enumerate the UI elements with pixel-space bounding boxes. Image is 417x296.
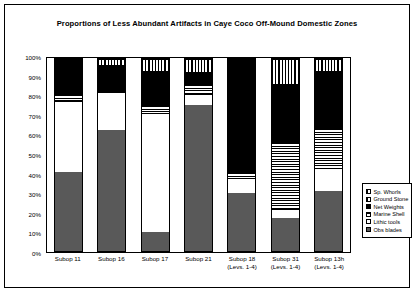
legend-item[interactable]: Sp. Whorls xyxy=(366,189,409,195)
y-axis-tick-label: 70% xyxy=(29,112,41,119)
stacked-bar[interactable] xyxy=(271,58,300,252)
x-axis-label-sub: (Levs. 1-4) xyxy=(309,263,349,271)
bar-segment xyxy=(228,193,255,251)
legend-swatch xyxy=(366,204,371,209)
x-axis-label-main: Subop 16 xyxy=(92,255,132,263)
chart-legend: Sp. WhorlsGround StoneNet WeightsMarine … xyxy=(362,183,412,238)
bar-segment xyxy=(185,94,212,106)
y-axis-tick-label: 20% xyxy=(29,210,41,217)
x-axis-label-main: Subop 31 xyxy=(266,255,306,263)
y-axis-tick-label: 30% xyxy=(29,191,41,198)
bar-segment xyxy=(185,59,212,72)
bar-segment xyxy=(315,191,342,251)
bar-segment xyxy=(142,71,169,106)
bar-column xyxy=(141,58,170,252)
bar-segment xyxy=(142,232,169,251)
x-axis-label-sub: (Levs. 1-4) xyxy=(266,263,306,271)
stacked-bar[interactable] xyxy=(314,58,343,252)
stacked-bar[interactable] xyxy=(227,58,256,252)
x-axis-tick-label: Subop 21 xyxy=(179,255,219,289)
x-axis: Subop 11Subop 16Subop 17Subop 21Subop 18… xyxy=(46,255,351,289)
bar-segment xyxy=(315,71,342,129)
stacked-bar[interactable] xyxy=(97,58,126,252)
bar-segment xyxy=(315,168,342,191)
x-axis-label-sub: (Levs. 1-4) xyxy=(222,263,262,271)
bar-segment xyxy=(142,59,169,71)
bar-segment xyxy=(315,59,342,71)
bar-column xyxy=(314,58,343,252)
stacked-bar[interactable] xyxy=(184,58,213,252)
x-axis-tick-label: Subop 17 xyxy=(135,255,175,289)
bar-segment xyxy=(55,59,82,94)
y-axis-tick-label: 60% xyxy=(29,132,41,139)
legend-swatch xyxy=(366,227,371,232)
bar-segment xyxy=(185,105,212,251)
bar-column xyxy=(184,58,213,252)
bar-segment xyxy=(228,59,255,172)
x-axis-tick-label: Subop 13h(Levs. 1-4) xyxy=(309,255,349,289)
legend-label: Marine Shell xyxy=(374,211,405,217)
bar-segment xyxy=(55,172,82,251)
legend-swatch xyxy=(366,197,371,202)
y-axis: 0%10%20%30%40%50%60%70%80%90%100% xyxy=(5,57,44,253)
x-axis-tick-label: Subop 11 xyxy=(48,255,88,289)
legend-label: Ground Stone xyxy=(374,196,409,202)
y-axis-tick-label: 50% xyxy=(29,152,41,159)
x-axis-label-main: Subop 17 xyxy=(135,255,175,263)
bar-segment xyxy=(272,218,299,251)
legend-label: Obs blades xyxy=(374,227,402,233)
legend-item[interactable]: Ground Stone xyxy=(366,196,409,202)
y-axis-tick-label: 80% xyxy=(29,93,41,100)
bar-segment xyxy=(98,65,125,92)
bar-segment xyxy=(185,84,212,94)
bar-column xyxy=(271,58,300,252)
stacked-bar[interactable] xyxy=(54,58,83,252)
bar-segment xyxy=(315,128,342,168)
y-axis-tick-label: 90% xyxy=(29,73,41,80)
x-axis-tick-label: Subop 16 xyxy=(92,255,132,289)
bar-segment xyxy=(272,84,299,142)
legend-swatch xyxy=(366,189,371,194)
bar-segment xyxy=(142,105,169,113)
x-axis-label-main: Subop 13h xyxy=(309,255,349,263)
y-axis-tick-label: 0% xyxy=(32,250,41,257)
bar-segment xyxy=(142,113,169,232)
y-axis-tick-label: 40% xyxy=(29,171,41,178)
bar-segment xyxy=(272,59,299,84)
legend-label: Sp. Whorls xyxy=(374,189,401,195)
bar-segment xyxy=(228,178,255,193)
legend-label: Lithic tools xyxy=(374,219,400,225)
bar-segment xyxy=(55,94,82,102)
y-axis-tick-label: 10% xyxy=(29,230,41,237)
bar-segment xyxy=(98,130,125,251)
x-axis-tick-label: Subop 31(Levs. 1-4) xyxy=(266,255,306,289)
bar-segment xyxy=(272,209,299,219)
chart-title: Proportions of Less Abundant Artifacts i… xyxy=(5,19,409,28)
legend-item[interactable]: Net Weights xyxy=(366,204,409,210)
legend-swatch xyxy=(366,212,371,217)
bar-segment xyxy=(55,101,82,172)
y-axis-tick-label: 100% xyxy=(25,54,41,61)
legend-item[interactable]: Marine Shell xyxy=(366,211,409,217)
chart-frame: Proportions of Less Abundant Artifacts i… xyxy=(4,4,410,288)
bar-series-container xyxy=(47,58,350,252)
bar-segment xyxy=(185,72,212,84)
legend-item[interactable]: Obs blades xyxy=(366,227,409,233)
plot-area xyxy=(46,57,351,253)
x-axis-label-main: Subop 21 xyxy=(179,255,219,263)
bar-column xyxy=(54,58,83,252)
stacked-bar[interactable] xyxy=(141,58,170,252)
legend-label: Net Weights xyxy=(374,204,404,210)
bar-segment xyxy=(272,142,299,209)
x-axis-label-main: Subop 11 xyxy=(48,255,88,263)
x-axis-tick-label: Subop 18(Levs. 1-4) xyxy=(222,255,262,289)
legend-swatch xyxy=(366,219,371,224)
bar-column xyxy=(97,58,126,252)
x-axis-label-main: Subop 18 xyxy=(222,255,262,263)
bar-segment xyxy=(98,92,125,130)
legend-item[interactable]: Lithic tools xyxy=(366,219,409,225)
bar-column xyxy=(227,58,256,252)
